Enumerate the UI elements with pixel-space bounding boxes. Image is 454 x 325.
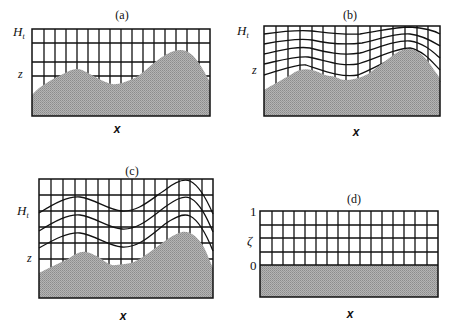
panel-b-title: (b): [343, 8, 357, 22]
panel-d-title: (d): [347, 192, 361, 206]
panel-d: (d) 1 ζ 0 x: [247, 192, 438, 321]
panel-c-x-label: x: [119, 309, 128, 323]
panel-d-terrain: [260, 265, 438, 297]
panel-d-one-label: 1: [250, 204, 257, 219]
panel-a-ht-label: Ht: [12, 24, 25, 41]
figure-canvas: (a) Ht z x (b) Ht z x: [0, 0, 454, 325]
panel-d-zero-label: 0: [250, 258, 257, 273]
panel-d-x-label: x: [346, 307, 355, 321]
panel-c: (c) Ht z x: [16, 164, 213, 323]
panel-b: (b) Ht z x: [236, 8, 440, 139]
panel-d-zeta-label: ζ: [247, 233, 253, 248]
panel-d-grid: [260, 211, 438, 265]
panel-b-x-label: x: [352, 125, 361, 139]
panel-a: (a) Ht z x: [12, 8, 210, 136]
panel-c-ht-label: Ht: [16, 203, 29, 220]
panel-a-title: (a): [115, 8, 128, 22]
panel-a-z-label: z: [17, 67, 23, 81]
panel-b-z-label: z: [251, 63, 257, 77]
panel-c-terrain: [39, 232, 213, 298]
panel-a-x-label: x: [113, 122, 122, 136]
panel-c-z-label: z: [26, 251, 32, 265]
panel-c-title: (c): [125, 164, 138, 178]
panel-b-ht-label: Ht: [236, 23, 249, 40]
